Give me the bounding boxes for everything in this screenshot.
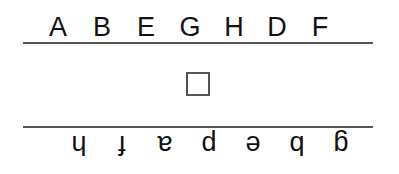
top-letter: B: [87, 10, 117, 44]
top-letter: F: [305, 10, 335, 44]
answer-box[interactable]: [186, 72, 210, 96]
top-letter: A: [43, 10, 73, 44]
rotated-letter: b: [282, 128, 312, 162]
top-letter: E: [131, 10, 161, 44]
rotated-letter: a: [150, 128, 180, 162]
top-letter: H: [219, 10, 249, 44]
rotated-letter: h: [64, 128, 94, 162]
rotated-letter: e: [238, 128, 268, 162]
rotated-letter: f: [107, 128, 137, 162]
top-letter-row: A B E G H D F: [0, 10, 399, 44]
rotated-letter: p: [194, 128, 224, 162]
bottom-letter-row-rotated: g b e p a f h: [0, 128, 399, 162]
top-divider-line: [23, 42, 373, 44]
rotated-letter: g: [326, 128, 356, 162]
top-letter: D: [262, 10, 292, 44]
top-letter: G: [175, 10, 205, 44]
